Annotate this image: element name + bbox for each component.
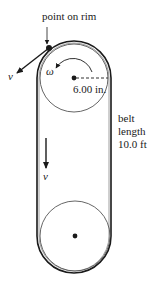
radius-label: 6.00 in. <box>73 83 106 96</box>
omega-arc-arrow <box>56 58 92 72</box>
bottom-pulley-center-dot <box>73 234 78 239</box>
bottom-pulley <box>40 201 110 271</box>
top-pulley <box>40 44 108 112</box>
tangent-velocity-arrow <box>17 48 49 73</box>
belt-length-label-line2: length <box>118 125 146 138</box>
point-on-rim-label: point on rim <box>42 10 96 23</box>
omega-label: ω <box>46 65 54 78</box>
belt-length-label-line1: belt <box>118 112 135 125</box>
top-pulley-center-dot <box>72 76 77 81</box>
belt-length-label-line3: 10.0 ft <box>118 138 147 151</box>
belt-velocity-label: v <box>43 170 48 183</box>
tangent-velocity-label: v <box>8 70 13 83</box>
